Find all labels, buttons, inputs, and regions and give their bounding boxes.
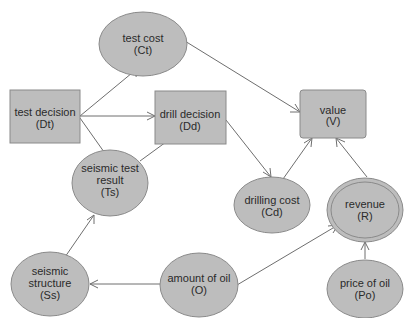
node-label: result <box>97 174 124 186</box>
influence-diagram: test cost (Ct) test decision (Dt) drill … <box>0 0 409 318</box>
node-label: test decision <box>14 106 75 118</box>
node-label: (Cd) <box>261 206 282 218</box>
node-label: (V) <box>326 115 341 127</box>
node-label: (Dd) <box>179 120 200 132</box>
edge-dt-ct <box>80 68 138 116</box>
edge-dd-cd <box>226 120 271 177</box>
node-label: amount of oil <box>168 272 231 284</box>
node-label: test cost <box>123 32 164 44</box>
node-drill-decision[interactable]: drill decision (Dd) <box>155 91 226 144</box>
node-label: seismic test <box>81 162 138 174</box>
node-label: seismic <box>32 265 69 277</box>
node-label: (Ct) <box>134 44 152 56</box>
node-drilling-cost[interactable]: drilling cost (Cd) <box>234 177 310 233</box>
edge-r-v <box>336 138 367 177</box>
node-amount-of-oil[interactable]: amount of oil (O) <box>160 253 238 317</box>
node-label: (Ss) <box>40 289 60 301</box>
edge-cd-v <box>283 138 312 179</box>
node-test-decision[interactable]: test decision (Dt) <box>10 90 80 143</box>
node-seismic-structure[interactable]: seismic structure (Ss) <box>11 252 89 316</box>
node-test-cost[interactable]: test cost (Ct) <box>99 12 187 76</box>
edge-o-r <box>237 225 338 285</box>
node-label: drill decision <box>160 108 221 120</box>
node-label: (R) <box>357 210 372 222</box>
edge-ss-ts <box>65 215 94 257</box>
node-label: (Ts) <box>101 186 119 198</box>
node-label: (Po) <box>355 289 376 301</box>
node-label: revenue <box>345 198 385 210</box>
node-seismic-test-result[interactable]: seismic test result (Ts) <box>72 150 148 216</box>
node-label: (Dt) <box>36 118 54 130</box>
node-label: price of oil <box>340 277 390 289</box>
node-price-of-oil[interactable]: price of oil (Po) <box>327 260 403 318</box>
node-revenue[interactable]: revenue (R) <box>327 178 403 242</box>
node-value[interactable]: value (V) <box>300 90 366 138</box>
node-label: structure <box>29 277 72 289</box>
node-label: drilling cost <box>244 194 299 206</box>
node-label: (O) <box>191 284 207 296</box>
